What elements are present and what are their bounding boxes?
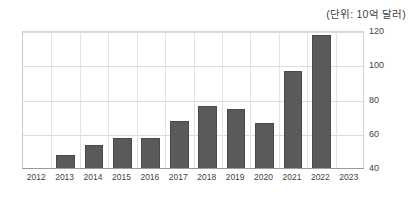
- bar-2013: [56, 155, 75, 169]
- bar-2019: [227, 109, 246, 169]
- x-tick-label-2018: 2018: [197, 172, 216, 182]
- y-tick-label-100: 100: [369, 60, 384, 70]
- x-tick-label-2023: 2023: [339, 172, 358, 182]
- bar-2022: [312, 35, 331, 169]
- bar-2016: [141, 138, 160, 169]
- gridline-x-6: [194, 32, 195, 169]
- y-tick-label-60: 60: [369, 129, 379, 139]
- x-tick-label-2022: 2022: [311, 172, 330, 182]
- bar-2020: [255, 123, 274, 169]
- bar-2018: [198, 106, 217, 169]
- plot-right-border: [363, 31, 364, 169]
- gridline-x-2: [80, 32, 81, 169]
- x-tick-label-2021: 2021: [282, 172, 301, 182]
- x-tick-label-2016: 2016: [140, 172, 159, 182]
- x-tick-label-2012: 2012: [27, 172, 46, 182]
- x-tick-label-2014: 2014: [84, 172, 103, 182]
- gridline-x-7: [222, 32, 223, 169]
- x-tick-label-2020: 2020: [254, 172, 273, 182]
- bar-2014: [85, 145, 104, 169]
- unit-caption: (단위: 10억 달러): [326, 6, 406, 21]
- y-tick-label-40: 40: [369, 163, 379, 173]
- plot-area: [22, 31, 364, 169]
- gridline-x-1: [51, 32, 52, 169]
- x-tick-label-2017: 2017: [169, 172, 188, 182]
- x-tick-label-2019: 2019: [226, 172, 245, 182]
- bar-2017: [170, 121, 189, 169]
- y-tick-label-80: 80: [369, 95, 379, 105]
- gridline-x-10: [307, 32, 308, 169]
- gridline-x-3: [108, 32, 109, 169]
- x-tick-label-2013: 2013: [55, 172, 74, 182]
- bar-2015: [113, 138, 132, 169]
- gridline-x-11: [336, 32, 337, 169]
- bar-2021: [284, 71, 303, 169]
- bar-chart-figure: (단위: 10억 달러) 406080100120 20122013201420…: [0, 0, 414, 197]
- gridline-x-9: [279, 32, 280, 169]
- y-tick-label-120: 120: [369, 26, 384, 36]
- gridline-x-5: [165, 32, 166, 169]
- gridline-x-4: [137, 32, 138, 169]
- x-axis-baseline: [22, 168, 364, 169]
- x-tick-label-2015: 2015: [112, 172, 131, 182]
- gridline-x-8: [250, 32, 251, 169]
